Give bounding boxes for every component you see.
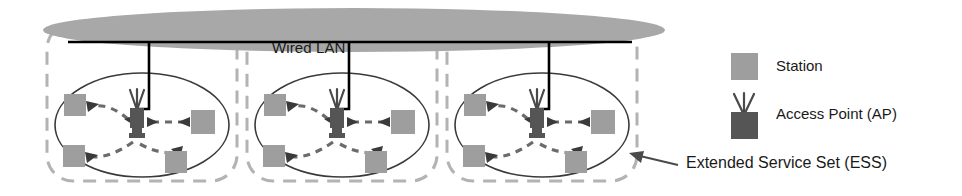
link-ap-to-station-bottom-left	[94, 142, 133, 157]
legend-access-point-label: Access Point (AP)	[776, 105, 897, 122]
wired-lan-label: Wired LAN	[272, 39, 345, 56]
link-ap-to-station-bottom-left	[294, 142, 333, 157]
arrowhead-to-station-right	[178, 117, 190, 127]
arrowhead-to-station-right	[578, 117, 590, 127]
arrowhead-to-station-top-left	[86, 101, 99, 112]
station-bottom-right	[565, 151, 587, 173]
station-top-left	[464, 94, 486, 116]
station-bottom-left	[463, 145, 485, 167]
legend-ap-icon	[731, 93, 758, 139]
station-top-left	[64, 94, 86, 116]
access-point-bss-3	[529, 89, 545, 138]
station-bottom-right	[165, 151, 187, 173]
access-point-bss-2	[329, 89, 345, 138]
arrowhead-to-station-top-left	[286, 101, 299, 112]
link-ap-to-station-bottom-left	[494, 142, 533, 157]
link-ap-to-station-top-left	[495, 106, 528, 119]
arrowhead-to-station-top-left	[486, 101, 499, 112]
station-bottom-right	[365, 151, 387, 173]
station-bottom-left	[263, 145, 285, 167]
wired-backbone	[68, 42, 632, 109]
wired-lan-ellipse	[43, 8, 665, 52]
arrowhead-to-ap-from-right	[547, 117, 558, 127]
station-bottom-left	[63, 145, 85, 167]
arrowhead-to-ap-from-right	[347, 117, 358, 127]
station-top-left	[264, 94, 286, 116]
network-diagram: Wired LAN Station Access Point (AP) Exte…	[0, 0, 962, 196]
legend-ess-label: Extended Service Set (ESS)	[686, 154, 887, 172]
legend-station-icon	[731, 53, 758, 80]
arrowhead-to-ap-from-right	[147, 117, 158, 127]
station-right	[591, 110, 615, 134]
arrowhead-to-station-right	[378, 117, 390, 127]
legend-station-label: Station	[776, 57, 823, 74]
station-right	[391, 110, 415, 134]
station-right	[191, 110, 215, 134]
link-ap-to-station-top-left	[95, 106, 128, 119]
access-point-bss-1	[129, 89, 145, 138]
link-ap-to-station-top-left	[295, 106, 328, 119]
